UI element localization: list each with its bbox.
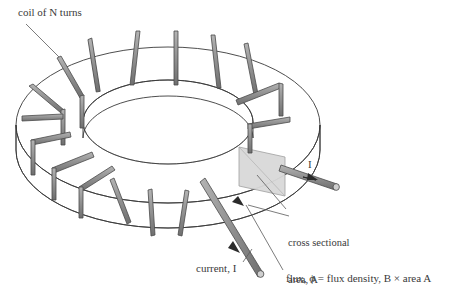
coil-turn (130, 31, 140, 85)
figure-canvas: coil of N turns current, I cross section… (0, 0, 465, 300)
label-current-right: I (308, 158, 312, 171)
coil-turn (88, 38, 100, 92)
label-cross-sectional-area: cross sectional area, A (288, 212, 350, 300)
label-coil-of-n-turns: coil of N turns (18, 6, 82, 19)
core-hole-bottom-edge (83, 122, 253, 164)
coil-turn (211, 35, 221, 88)
leader-coil (26, 24, 59, 57)
label-flux-equation: flux, ϕ = flux density, B × area A (286, 272, 431, 285)
coil-turn (244, 43, 258, 95)
coil-turn (244, 88, 248, 118)
coil-turn (22, 114, 63, 121)
coil-turn (174, 31, 178, 85)
core-inner-wall (83, 80, 253, 138)
label-current: current, I (196, 262, 236, 275)
toroid-diagram-svg (0, 0, 465, 300)
coil-turn (248, 117, 290, 153)
label-cross-line1: cross sectional (288, 237, 350, 249)
